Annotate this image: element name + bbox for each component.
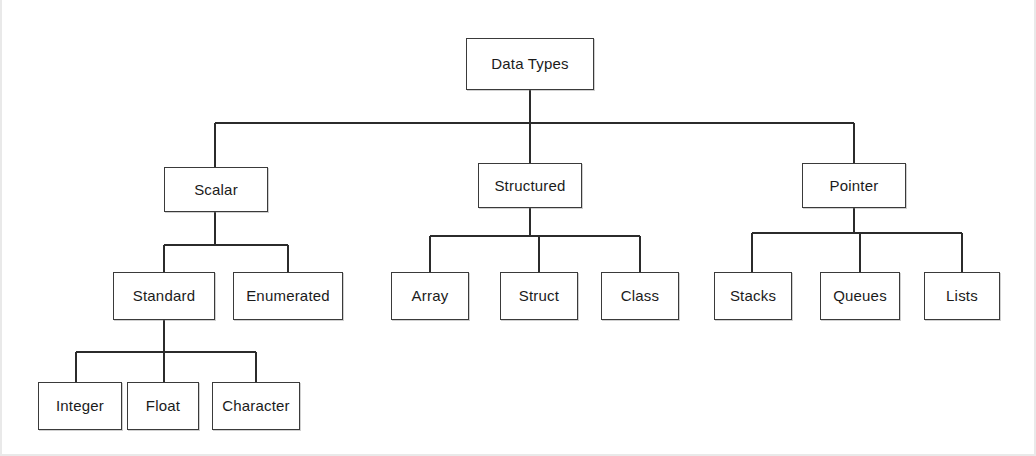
node-integer[interactable]: Integer: [38, 382, 122, 430]
node-label-character: Character: [222, 398, 290, 414]
node-pointer[interactable]: Pointer: [802, 163, 906, 208]
node-struct[interactable]: Struct: [500, 272, 578, 320]
node-data-types[interactable]: Data Types: [466, 38, 594, 90]
node-stacks[interactable]: Stacks: [714, 272, 792, 320]
node-queues[interactable]: Queues: [820, 272, 900, 320]
node-label-array: Array: [412, 288, 449, 304]
node-label-standard: Standard: [133, 288, 195, 304]
node-label-struct: Struct: [519, 288, 559, 304]
node-label-integer: Integer: [56, 398, 104, 414]
node-array[interactable]: Array: [391, 272, 469, 320]
node-label-pointer: Pointer: [830, 178, 879, 194]
node-structured[interactable]: Structured: [478, 163, 582, 208]
node-label-data-types: Data Types: [491, 56, 569, 72]
node-label-structured: Structured: [494, 178, 565, 194]
node-float[interactable]: Float: [127, 382, 199, 430]
diagram-canvas: Data TypesScalarStructuredPointerStandar…: [0, 0, 1036, 456]
node-label-class: Class: [621, 288, 660, 304]
node-label-scalar: Scalar: [194, 182, 238, 198]
node-label-stacks: Stacks: [730, 288, 776, 304]
node-label-lists: Lists: [946, 288, 978, 304]
node-standard[interactable]: Standard: [113, 272, 215, 320]
node-label-queues: Queues: [833, 288, 887, 304]
node-character[interactable]: Character: [212, 382, 300, 430]
node-enumerated[interactable]: Enumerated: [233, 272, 343, 320]
node-label-enumerated: Enumerated: [246, 288, 330, 304]
node-scalar[interactable]: Scalar: [164, 167, 268, 212]
node-class[interactable]: Class: [601, 272, 679, 320]
node-label-float: Float: [146, 398, 180, 414]
node-lists[interactable]: Lists: [924, 272, 1000, 320]
